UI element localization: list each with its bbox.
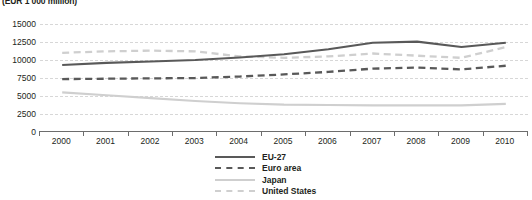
units-caption: (EUR 1 000 million) bbox=[2, 0, 77, 6]
plot-area bbox=[40, 24, 528, 132]
x-tick-label: 2000 bbox=[52, 136, 71, 146]
legend-label: EU-27 bbox=[262, 153, 286, 162]
x-tick bbox=[305, 131, 306, 136]
x-tick-label: 2006 bbox=[318, 136, 337, 146]
legend-item-united-states[interactable]: United States bbox=[215, 186, 395, 198]
x-tick-label: 2007 bbox=[362, 136, 381, 146]
x-tick bbox=[83, 131, 84, 136]
y-tick-label: 2500 bbox=[0, 109, 36, 119]
legend-label: Euro area bbox=[262, 164, 301, 173]
x-tick bbox=[438, 131, 439, 136]
x-axis: 2000200120022003200420052006200720082009… bbox=[39, 131, 528, 151]
x-tick bbox=[483, 131, 484, 136]
x-tick-label: 2010 bbox=[495, 136, 514, 146]
x-tick bbox=[216, 131, 217, 136]
x-tick bbox=[39, 131, 40, 136]
x-tick bbox=[261, 131, 262, 136]
legend-item-eu27[interactable]: EU-27 bbox=[215, 151, 395, 163]
legend-label: Japan bbox=[262, 176, 287, 185]
legend-swatch-icon bbox=[215, 167, 255, 169]
x-tick-label: 2003 bbox=[185, 136, 204, 146]
legend-swatch-icon bbox=[215, 179, 255, 181]
x-tick bbox=[350, 131, 351, 136]
y-axis: 0250050007500100001250015000 bbox=[0, 24, 36, 132]
x-tick-label: 2002 bbox=[140, 136, 159, 146]
series-lines bbox=[40, 24, 528, 132]
y-tick-label: 5000 bbox=[0, 91, 36, 101]
legend-label: United States bbox=[262, 187, 316, 196]
y-tick-label: 0 bbox=[0, 127, 36, 137]
x-tick-label: 2009 bbox=[451, 136, 470, 146]
series-line-japan bbox=[62, 92, 506, 105]
x-tick bbox=[128, 131, 129, 136]
legend-swatch-icon bbox=[215, 190, 255, 192]
legend-swatch-icon bbox=[215, 156, 255, 158]
x-tick bbox=[394, 131, 395, 136]
y-tick-label: 15000 bbox=[0, 19, 36, 29]
x-tick-label: 2005 bbox=[274, 136, 293, 146]
x-tick bbox=[527, 131, 528, 136]
series-line-euro-area bbox=[62, 66, 506, 79]
line-chart: (EUR 1 000 million) 02500500075001000012… bbox=[0, 0, 532, 200]
legend-item-japan[interactable]: Japan bbox=[215, 174, 395, 186]
x-tick bbox=[172, 131, 173, 136]
y-tick-label: 12500 bbox=[0, 37, 36, 47]
y-tick-label: 7500 bbox=[0, 73, 36, 83]
chart-legend: EU-27Euro areaJapanUnited States bbox=[215, 151, 395, 197]
y-tick-label: 10000 bbox=[0, 55, 36, 65]
x-tick-label: 2008 bbox=[407, 136, 426, 146]
x-tick-label: 2004 bbox=[229, 136, 248, 146]
series-line-eu-27 bbox=[62, 42, 506, 65]
x-tick-label: 2001 bbox=[96, 136, 115, 146]
series-line-united-states bbox=[62, 47, 506, 58]
legend-item-euro-area[interactable]: Euro area bbox=[215, 163, 395, 175]
